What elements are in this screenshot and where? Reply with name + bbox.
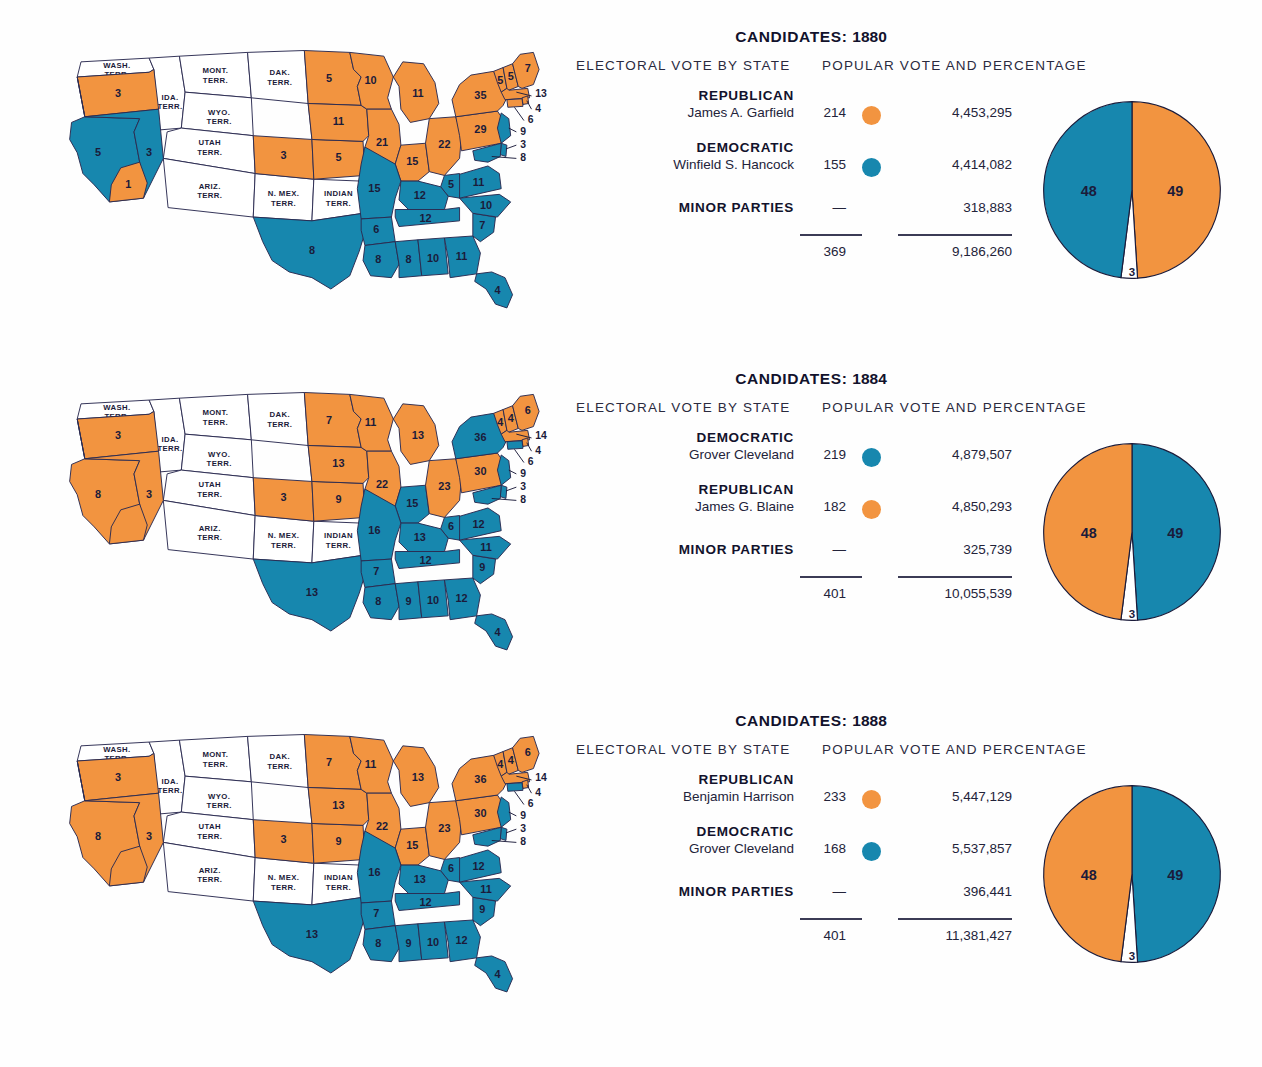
electoral-votes-nc: 11: [480, 541, 491, 553]
state-mont: MONT.TERR.: [179, 394, 251, 439]
party-name: MINOR PARTIES: [679, 200, 794, 215]
party-row: DEMOCRATICGrover Cleveland1685,537,857: [576, 824, 1076, 876]
electoral-votes: 219: [804, 447, 846, 462]
territory-label: N. MEX.: [268, 873, 300, 882]
territory-label: WASH.: [103, 61, 130, 70]
electoral-votes: 155: [804, 157, 846, 172]
electoral-votes-ca: 8: [95, 488, 101, 500]
stats-container-1884: CANDIDATES: 1884ELECTORAL VOTE BY STATEP…: [576, 352, 1076, 692]
electoral-votes-wv: 6: [448, 520, 454, 532]
electoral-votes: —: [804, 884, 846, 899]
territory-label: TERR.: [271, 883, 296, 892]
candidates-title: CANDIDATES: 1884: [576, 370, 1046, 388]
electoral-votes-in: 15: [406, 839, 418, 851]
territory-label: INDIAN: [324, 873, 353, 882]
party-row: REPUBLICANBenjamin Harrison2335,447,129: [576, 772, 1076, 824]
electoral-votes-ms: 9: [405, 595, 411, 607]
electoral-votes-ky: 13: [414, 873, 426, 885]
party-row: DEMOCRATICWinfield S. Hancock1554,414,08…: [576, 140, 1076, 192]
electoral-votes-ks: 5: [335, 151, 341, 163]
electoral-votes-fl: 4: [494, 968, 500, 980]
candidate-name: James G. Blaine: [695, 499, 794, 514]
popular-total-rule: [898, 576, 1012, 578]
electoral-votes-ky: 12: [414, 189, 426, 201]
leader-line-ri: [527, 785, 532, 794]
electoral-votes-va: 12: [472, 518, 484, 530]
electoral-votes-ca: 8: [95, 830, 101, 842]
pie-container-1880: 49483: [1032, 10, 1242, 350]
pie-label-right: 49: [1167, 525, 1183, 541]
electoral-votes-mi: 13: [412, 429, 424, 441]
state-nmex: N. MEX.TERR.: [253, 174, 314, 221]
electoral-votes-me: 6: [525, 746, 531, 758]
party-rows: REPUBLICANJames A. Garfield2144,453,295D…: [576, 88, 1076, 232]
party-row: MINOR PARTIES—318,883: [576, 192, 1076, 232]
column-headers: ELECTORAL VOTE BY STATEPOPULAR VOTE AND …: [576, 58, 1076, 76]
party-color-dot: [862, 500, 881, 519]
stats-container-1880: CANDIDATES: 1880ELECTORAL VOTE BY STATEP…: [576, 10, 1076, 350]
state-la: 8: [363, 584, 399, 620]
state-sc: 7: [473, 213, 496, 241]
electoral-votes-wv: 5: [448, 178, 454, 190]
state-al: 10: [418, 922, 448, 960]
electoral-votes: —: [804, 542, 846, 557]
party-rows: REPUBLICANBenjamin Harrison2335,447,129D…: [576, 772, 1076, 916]
party-name: DEMOCRATIC: [697, 430, 795, 445]
electoral-votes: 233: [804, 789, 846, 804]
electoral-votes-in: 15: [406, 497, 418, 509]
electoral-votes-il: 22: [376, 478, 388, 490]
column-headers: ELECTORAL VOTE BY STATEPOPULAR VOTE AND …: [576, 742, 1076, 760]
electoral-votes-ms: 9: [405, 937, 411, 949]
party-color-dot: [862, 448, 881, 467]
territory-label: TERR.: [197, 191, 222, 200]
territory-label: DAK.: [270, 410, 290, 419]
electoral-votes-ia: 13: [332, 799, 344, 811]
state-tn: 12: [395, 892, 459, 911]
territory-label: WASH.: [103, 745, 130, 754]
electoral-votes-nj: 9: [520, 810, 526, 821]
electoral-votes-mo: 16: [368, 524, 380, 536]
electoral-votes-nv: 3: [146, 830, 152, 842]
territory-label: ARIZ.: [199, 866, 221, 875]
state-dak: DAK.TERR.: [248, 393, 309, 446]
territory-label: IDA.: [161, 777, 178, 786]
leader-line-ct: [514, 791, 523, 804]
electoral-votes-ct: 6: [528, 456, 534, 467]
state-al: 10: [418, 238, 448, 276]
territory-label: TERR.: [207, 117, 232, 126]
electoral-votes-ri: 4: [535, 787, 541, 798]
territory-label: TERR.: [326, 541, 351, 550]
electoral-votes-nv: 3: [146, 488, 152, 500]
state-va: 12: [456, 508, 501, 540]
electoral-votes-nh: 5: [508, 70, 514, 82]
electoral-map: WASH.TERR.IDA.TERR.MONT.TERR.WYO.TERR.DA…: [28, 18, 558, 348]
state-mont: MONT.TERR.: [179, 52, 251, 97]
territory-label: TERR.: [203, 76, 228, 85]
party-name: MINOR PARTIES: [679, 884, 794, 899]
party-color-dot: [862, 158, 881, 177]
leader-line-ri: [527, 443, 532, 452]
candidate-name: Benjamin Harrison: [683, 789, 794, 804]
state-mi: 13: [393, 404, 438, 465]
state-sc: 9: [473, 555, 496, 583]
state-co: 3: [253, 136, 314, 180]
party-name: REPUBLICAN: [698, 482, 794, 497]
electoral-votes-va: 11: [473, 176, 485, 188]
electoral-votes-or: 3: [115, 87, 121, 99]
electoral-votes-wi: 11: [365, 758, 377, 770]
territory-label: TERR.: [203, 418, 228, 427]
state-ks: 9: [312, 823, 365, 863]
state-in: 15: [395, 485, 429, 523]
territory-label: UTAH: [198, 822, 220, 831]
party-name: REPUBLICAN: [698, 772, 794, 787]
electoral-votes-tn: 12: [419, 554, 431, 566]
electoral-total: 401: [800, 928, 846, 943]
state-oh: 23: [426, 801, 462, 860]
electoral-votes-ia: 13: [332, 457, 344, 469]
party-name: DEMOCRATIC: [697, 824, 795, 839]
leader-line-de: [506, 487, 516, 491]
electoral-votes-mo: 16: [368, 866, 380, 878]
state-ks: 5: [312, 139, 365, 179]
electoral-votes-md: 8: [520, 152, 526, 163]
state-tx: 8: [253, 213, 367, 289]
